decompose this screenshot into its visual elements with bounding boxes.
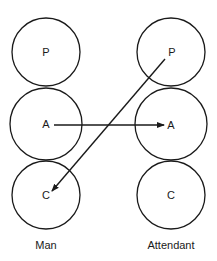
attendant-parent-label: P xyxy=(168,46,175,58)
man-child-label: C xyxy=(42,189,50,201)
man-parent-label: P xyxy=(42,46,49,58)
ego-state-diagram: P A C Man P A C Attendant xyxy=(0,0,217,261)
man-column: P A C Man xyxy=(10,18,82,251)
attendant-child-label: C xyxy=(167,189,175,201)
attendant-adult-label: A xyxy=(167,119,175,131)
attendant-caption: Attendant xyxy=(147,239,194,251)
man-caption: Man xyxy=(35,239,56,251)
man-adult-label: A xyxy=(42,118,50,130)
attendant-column: P A C Attendant xyxy=(135,18,207,251)
